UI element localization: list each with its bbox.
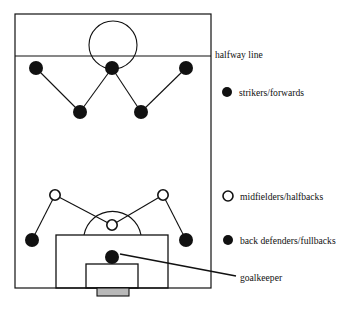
player-defender-left — [25, 233, 39, 247]
forwards-group — [29, 61, 193, 119]
player-connector-lines — [32, 68, 186, 240]
goal-net — [97, 288, 129, 296]
connector-forward-1 — [36, 68, 80, 112]
connector-mid-4 — [163, 195, 186, 240]
goal-area — [86, 264, 138, 288]
player-midfielder-left — [50, 190, 60, 200]
legend-filled-circle-icon-2 — [223, 235, 233, 245]
legend-item-midfielders: midfielders/halfbacks — [223, 191, 323, 202]
connector-forward-4 — [141, 68, 186, 112]
player-forward-inside-left — [73, 105, 87, 119]
legend: strikers/forwards midfielders/halfbacks … — [222, 87, 336, 246]
halfway-line-label: halfway line — [215, 49, 263, 60]
formation-diagram: halfway line goalkeeper strikers/forward… — [0, 0, 362, 309]
player-forward-left — [29, 61, 43, 75]
player-goalkeeper — [105, 250, 119, 264]
legend-filled-circle-icon — [222, 87, 232, 97]
connector-mid-1 — [32, 195, 55, 240]
player-defender-right — [179, 233, 193, 247]
connector-forward-2 — [80, 68, 112, 112]
legend-label-defenders: back defenders/fullbacks — [240, 235, 336, 246]
player-midfielder-center — [107, 220, 117, 230]
connector-forward-3 — [112, 68, 141, 112]
legend-label-strikers: strikers/forwards — [239, 87, 304, 98]
player-forward-center — [105, 61, 119, 75]
field-outline — [15, 14, 211, 288]
player-midfielder-right — [158, 190, 168, 200]
goalkeeper-label: goalkeeper — [240, 272, 283, 283]
connector-mid-3 — [112, 195, 163, 225]
soccer-field-svg: halfway line goalkeeper strikers/forward… — [0, 0, 362, 309]
legend-item-defenders: back defenders/fullbacks — [223, 235, 336, 246]
legend-label-midfielders: midfielders/halfbacks — [240, 191, 323, 202]
player-forward-inside-right — [134, 105, 148, 119]
midfielders-group — [50, 190, 168, 230]
connector-mid-2 — [55, 195, 112, 225]
field-outline-group — [15, 14, 211, 288]
player-forward-right — [179, 61, 193, 75]
legend-open-circle-icon — [223, 191, 233, 201]
legend-item-strikers: strikers/forwards — [222, 87, 304, 98]
